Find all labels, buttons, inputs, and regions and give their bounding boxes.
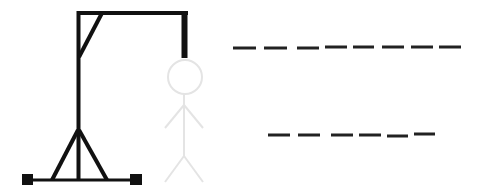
gallows-leg-right bbox=[79, 130, 107, 180]
figure-leg-right bbox=[184, 156, 203, 182]
figure-leg-left bbox=[165, 156, 184, 182]
figure-arm-right bbox=[184, 105, 203, 128]
hangman-game bbox=[0, 0, 485, 185]
figure-head bbox=[168, 60, 202, 94]
word-blanks-row-2 bbox=[268, 134, 435, 136]
gallows-leg-left bbox=[52, 130, 78, 180]
figure-arm-left bbox=[165, 105, 184, 128]
gallows-foot-right bbox=[130, 174, 142, 185]
hangman-canvas bbox=[0, 0, 485, 185]
gallows-brace bbox=[79, 13, 102, 57]
gallows-foot-left bbox=[22, 174, 33, 185]
hangman-figure bbox=[165, 60, 203, 182]
gallows bbox=[22, 11, 188, 185]
word-blanks-row-1 bbox=[233, 47, 461, 48]
